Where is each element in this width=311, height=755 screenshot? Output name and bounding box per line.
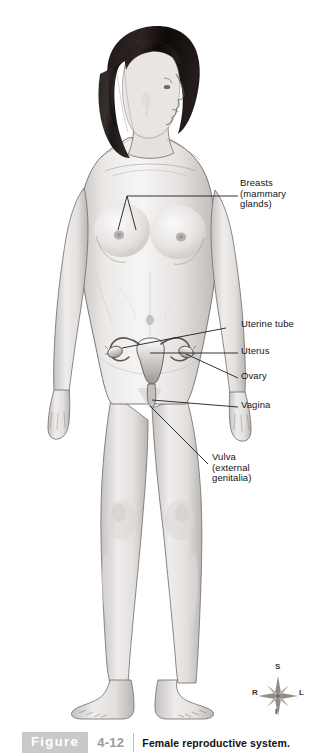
left-arm <box>54 188 88 408</box>
compass-inferior-label: I <box>275 707 277 718</box>
caption-divider <box>133 733 134 752</box>
cut-off-text-top <box>0 0 311 4</box>
compass-left-label: L <box>299 688 304 699</box>
right-breast <box>150 205 206 259</box>
right-foot <box>155 680 214 719</box>
left-hand <box>48 390 70 439</box>
compass-right-label: R <box>252 688 258 699</box>
anatomical-illustration <box>0 8 311 723</box>
navel <box>146 315 154 325</box>
label-vagina: Vagina <box>241 400 270 411</box>
figure-number: 4-12 <box>97 735 124 750</box>
left-foot <box>71 680 134 719</box>
label-ovary: Ovary <box>241 371 267 382</box>
figure-label-box: Figure <box>22 732 88 753</box>
figure-caption-text: Female reproductive system. <box>142 737 290 749</box>
vagina <box>147 384 155 407</box>
label-uterine-tube: Uterine tube <box>241 319 294 330</box>
figure-container: Breasts (mammary glands) Uterine tube Ut… <box>0 0 311 755</box>
label-breasts: Breasts (mammary glands) <box>240 178 286 210</box>
compass-rose <box>258 676 298 716</box>
label-vulva: Vulva (external genitalia) <box>212 452 252 484</box>
left-breast <box>94 203 150 257</box>
eye <box>164 85 170 89</box>
label-uterus: Uterus <box>241 346 270 357</box>
compass-superior-label: S <box>275 662 280 673</box>
figure-caption-bar: Figure 4-12 Female reproductive system. <box>0 730 311 755</box>
